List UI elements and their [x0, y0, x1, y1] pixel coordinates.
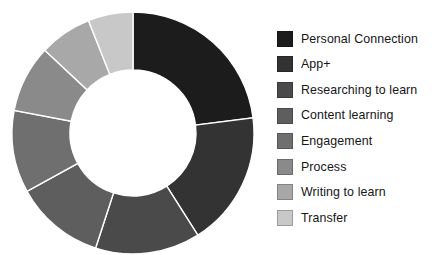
- legend-item[interactable]: Content learning: [277, 103, 435, 129]
- legend-item-label: Researching to learn: [301, 84, 417, 96]
- legend-swatch-icon: [277, 210, 293, 226]
- legend-swatch-icon: [277, 31, 293, 47]
- donut-slice-group: [12, 12, 254, 254]
- legend-item[interactable]: Personal Connection: [277, 26, 435, 52]
- legend-swatch-icon: [277, 82, 293, 98]
- legend-item-label: Content learning: [301, 109, 394, 121]
- donut-chart-plot-area: [0, 0, 266, 255]
- legend-item-label: Personal Connection: [301, 33, 418, 45]
- donut-chart-svg: [0, 0, 266, 255]
- legend-item-label: Transfer: [301, 212, 347, 224]
- legend-item-label: Writing to learn: [301, 186, 386, 198]
- legend-item-label: Engagement: [301, 135, 372, 147]
- legend-swatch-icon: [277, 159, 293, 175]
- legend-swatch-icon: [277, 56, 293, 72]
- legend-item[interactable]: Writing to learn: [277, 180, 435, 206]
- legend-swatch-icon: [277, 108, 293, 124]
- legend-item-label: Process: [301, 161, 346, 173]
- legend-item-label: App+: [301, 58, 331, 70]
- legend-item[interactable]: Engagement: [277, 128, 435, 154]
- legend-swatch-icon: [277, 184, 293, 200]
- legend-item[interactable]: Process: [277, 154, 435, 180]
- legend-item[interactable]: Transfer: [277, 205, 435, 231]
- chart-legend: Personal ConnectionApp+Researching to le…: [277, 26, 435, 231]
- legend-swatch-icon: [277, 133, 293, 149]
- donut-chart-figure: Personal ConnectionApp+Researching to le…: [0, 0, 435, 255]
- legend-item[interactable]: App+: [277, 52, 435, 78]
- legend-item[interactable]: Researching to learn: [277, 77, 435, 103]
- donut-slice[interactable]: [133, 12, 253, 125]
